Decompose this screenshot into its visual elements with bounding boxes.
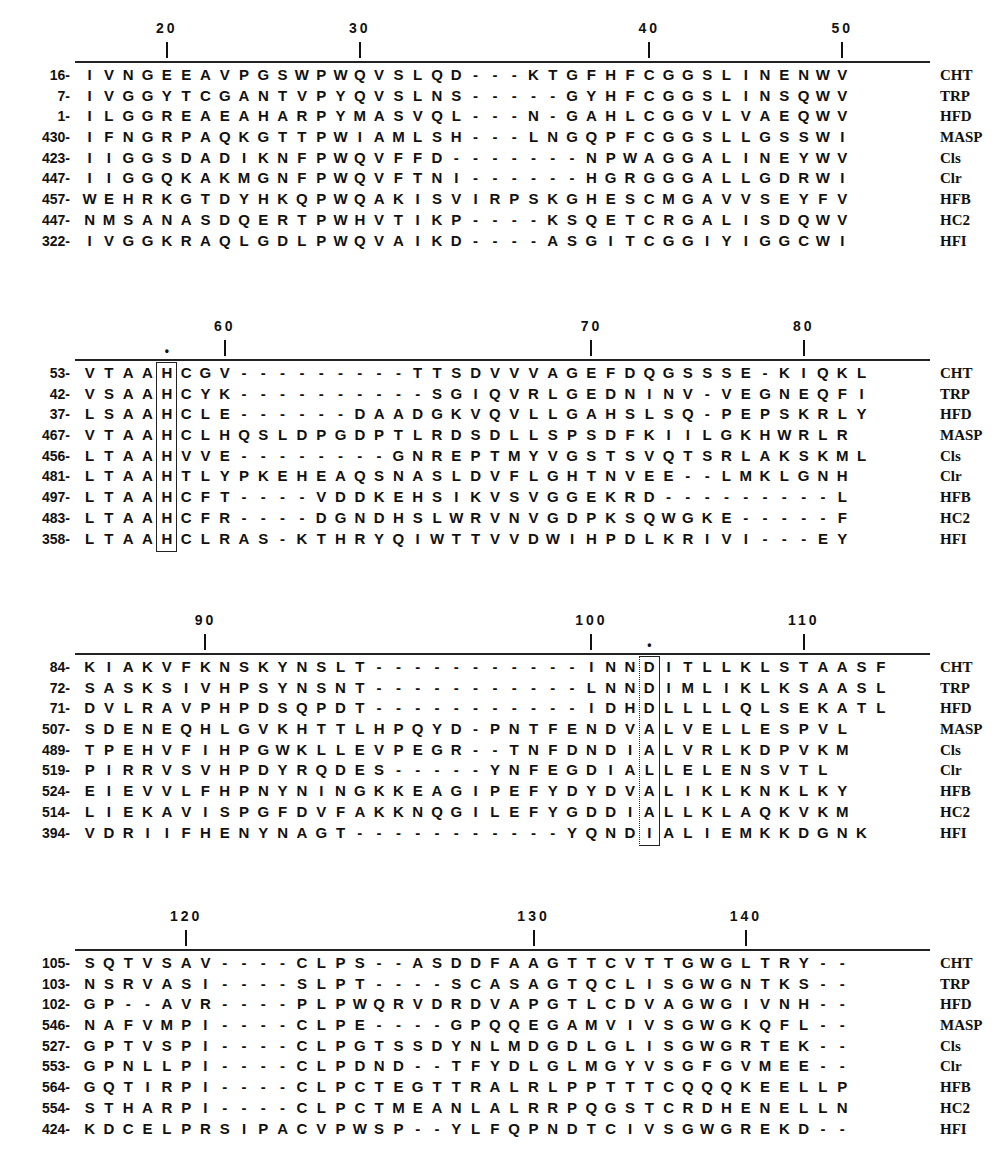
aligned-sequence: IVGGKRAQLGDLPWQVAIKD----ASGITCGGIYIGGCWI (80, 231, 852, 252)
aligned-sequence: IIGGQKAKMGNFPWQVFTNI------HGRGGGALLGDRWI (80, 168, 852, 189)
sequence-name-label: Cls (940, 148, 961, 169)
aligned-sequence: NAFVMPI----CLPE----GPQQEGAMVIVSGWGKQFL-- (80, 1015, 852, 1036)
aligned-sequence: VDRIIFHENYNAGT-----------YQNDIALIEMKKDGN… (80, 823, 871, 844)
aligned-sequence: SASKSIVHPSYNSNT-----------LNNDIMLIKLKSAA… (80, 678, 890, 699)
aligned-sequence: LTAAHCFT----VDDKEHSIKVSVGGEKRD---------L (80, 487, 852, 508)
ruler-tick-mark (224, 340, 226, 356)
sequence-name-label: Clr (940, 466, 962, 487)
aligned-sequence: STHARPI----CLPCTMEANLALRRPQGSTCRDHENELLN (80, 1098, 852, 1119)
aligned-sequence: EIEVVLFHPNYNINGKKEAGIPEFYDYDVALIKLKNKLKY (80, 781, 852, 802)
sequence-name-label: HFD (940, 404, 972, 425)
ruler-tick-label: 90 (195, 612, 217, 628)
residue-start-position: 447- (0, 210, 70, 231)
aligned-sequence: LIEKAVISPGFDVFAKKNQGILEFYGDDIALLKLAQKVKM (80, 802, 852, 823)
residue-start-position: 554- (0, 1098, 70, 1119)
aligned-sequence: DVLRAVPHPDSQPDT-----------IDHDLLLLQLSEKA… (80, 698, 890, 719)
residue-start-position: 564- (0, 1077, 70, 1098)
sequence-name-label: HFB (940, 781, 971, 802)
sequence-name-label: MASP (940, 1015, 983, 1036)
position-ruler: 20304050 (0, 20, 1007, 70)
aligned-sequence: LTAAHCFR----DGNDHSLWRVNVGDPKSQWGKE-----F (80, 508, 852, 529)
residue-start-position: 42- (0, 384, 70, 405)
sequence-name-label: TRP (940, 384, 970, 405)
page-top-edge (0, 0, 1007, 8)
residue-start-position: 456- (0, 446, 70, 467)
residue-start-position: 447- (0, 168, 70, 189)
residue-start-position: 524- (0, 781, 70, 802)
sequence-name-label: HFD (940, 994, 972, 1015)
residue-start-position: 457- (0, 189, 70, 210)
ruler-tick-mark (648, 42, 650, 58)
block-rule-line (75, 653, 930, 655)
residue-start-position: 483- (0, 508, 70, 529)
ruler-tick-mark (841, 42, 843, 58)
aligned-sequence: VSAAHCYK----------SGIQVRLGEDNINV-VEGNEQF… (80, 384, 871, 405)
ruler-tick-mark (590, 340, 592, 356)
sequence-name-label: HC2 (940, 508, 970, 529)
ruler-tick-mark (745, 930, 747, 946)
ruler-tick-label: 110 (788, 612, 820, 628)
residue-start-position: 507- (0, 719, 70, 740)
ruler-tick-label: 20 (156, 20, 178, 36)
residue-start-position: 1- (0, 106, 70, 127)
ruler-tick-label: 100 (575, 612, 607, 628)
ruler-tick-label: 40 (639, 20, 661, 36)
residue-start-position: 514- (0, 802, 70, 823)
ruler-tick-mark (803, 340, 805, 356)
aligned-sequence: LTAAHCLRAS-KTHRYQIWTTVVDWIHPDLKRIVI---EY (80, 529, 852, 550)
residue-start-position: 37- (0, 404, 70, 425)
sequence-name-label: HFI (940, 231, 967, 252)
ruler-tick-mark (359, 42, 361, 58)
residue-start-position: 553- (0, 1056, 70, 1077)
aligned-sequence: IIGGSDADIKNFPWQVFFD-------NPWAGGALINEYWV (80, 148, 852, 169)
ruler-tick-label: 70 (581, 318, 603, 334)
ruler-tick-label: 30 (349, 20, 371, 36)
aligned-sequence: KIAKVFKNSKYNSLT-----------INNDITLLKLSTAA… (80, 657, 890, 678)
residue-start-position: 72- (0, 678, 70, 699)
aligned-sequence: IVNGEEAVPGSWPWQVSLQD---KTGFHFCGGSLINENWV (80, 65, 852, 86)
sequence-name-label: Cls (940, 446, 961, 467)
sequence-name-label: MASP (940, 127, 983, 148)
aligned-sequence: ILGGREAEAHARPYMASVQL---N-GAHLCGGVLVAEQWV (80, 106, 852, 127)
sequence-name-label: HFB (940, 487, 971, 508)
sequence-name-label: TRP (940, 86, 970, 107)
aligned-sequence: TPEHVFIHPGWKLLEVPEGR--TNFDNDIALVRLKDPVKM (80, 740, 852, 761)
aligned-sequence: NSRVASI----SLPT----SCASAGTQCLISGWGNTKS-- (80, 974, 852, 995)
aligned-sequence: GPTVSPI----CLPGTSSDYNLMDGDLGLISGWGRTEK-- (80, 1036, 852, 1057)
sequence-name-label: CHT (940, 657, 973, 678)
sequence-name-label: HFI (940, 529, 967, 550)
residue-start-position: 7- (0, 86, 70, 107)
active-site-marker: • (647, 638, 651, 652)
residue-start-position: 527- (0, 1036, 70, 1057)
residue-start-position: 497- (0, 487, 70, 508)
sequence-name-label: HC2 (940, 802, 970, 823)
ruler-tick-mark (803, 634, 805, 650)
aligned-sequence: LTAAHTLYPKEHEAQSNASLDVFLGHTNVEE--LMKLGNH (80, 466, 852, 487)
ruler-tick-label: 50 (832, 20, 854, 36)
residue-start-position: 322- (0, 231, 70, 252)
block-rule-line (75, 949, 930, 951)
aligned-sequence: SQTVSAV----CLPS--ASDDFAAGTTCVTTGWGLTRY-- (80, 953, 852, 974)
sequence-name-label: HC2 (940, 210, 970, 231)
residue-start-position: 430- (0, 127, 70, 148)
residue-start-position: 16- (0, 65, 70, 86)
sequence-name-label: CHT (940, 953, 973, 974)
sequence-name-label: TRP (940, 678, 970, 699)
sequence-name-label: Clr (940, 760, 962, 781)
sequence-name-label: HFD (940, 698, 972, 719)
sequence-name-label: CHT (940, 65, 973, 86)
aligned-sequence: NMSANASDQERTPWHVTIKP----KSQETCRGALISDQWV (80, 210, 852, 231)
conserved-residue-box (639, 656, 660, 846)
aligned-sequence: VTAAHCGV---------TTSDVVVAGEFDQGSSSE-KIQK… (80, 363, 871, 384)
residue-start-position: 423- (0, 148, 70, 169)
ruler-tick-mark (166, 42, 168, 58)
aligned-sequence: VTAAHCLHQSLDPGDPTLRDSDLLSPSDFKIILGKHWRLR (80, 425, 852, 446)
sequence-name-label: Cls (940, 1036, 961, 1057)
sequence-name-label: CHT (940, 363, 973, 384)
residue-start-position: 358- (0, 529, 70, 550)
sequence-name-label: MASP (940, 425, 983, 446)
sequence-name-label: HFB (940, 189, 971, 210)
ruler-tick-label: 140 (730, 908, 762, 924)
ruler-tick-label: 130 (517, 908, 549, 924)
residue-start-position: 71- (0, 698, 70, 719)
